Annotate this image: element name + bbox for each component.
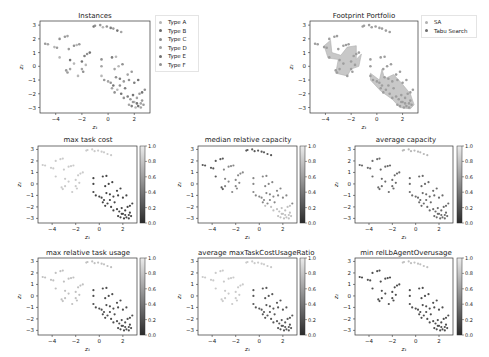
data-point bbox=[409, 295, 411, 297]
data-point bbox=[98, 308, 100, 310]
data-point bbox=[126, 95, 129, 98]
data-point bbox=[62, 300, 64, 302]
data-point bbox=[44, 276, 46, 278]
panel-average-maxtaskcostusageratio: average maxTaskCostUsageRatio −4−2023210… bbox=[160, 243, 323, 357]
data-point bbox=[342, 62, 345, 65]
y-tick-label: 2 bbox=[33, 36, 37, 42]
data-point bbox=[350, 68, 353, 71]
x-tick-label: 0 bbox=[375, 116, 379, 122]
data-point bbox=[231, 191, 233, 193]
data-point bbox=[91, 260, 93, 262]
data-point bbox=[115, 55, 118, 58]
data-point bbox=[447, 202, 449, 204]
data-point bbox=[142, 104, 145, 107]
panel-instances: Instances −4−2023210−1−2−3z₁z₂ Type A Ty… bbox=[0, 0, 245, 130]
y-tick-label: 2 bbox=[348, 158, 352, 164]
scatter-plot: −4−2023210−1−2−3z₁z₂1.00.80.60.40.20.0 bbox=[0, 130, 163, 243]
y-tick-label: 3 bbox=[191, 146, 195, 152]
data-point bbox=[116, 88, 119, 91]
data-point bbox=[400, 94, 403, 97]
data-point bbox=[274, 201, 276, 203]
colorbar-tick-label: 0.2 bbox=[148, 317, 156, 323]
data-point bbox=[444, 217, 446, 219]
y-tick-label: 3 bbox=[31, 146, 35, 152]
data-point bbox=[289, 205, 291, 207]
data-point bbox=[110, 154, 112, 156]
legend: Type A Type B Type C Type D Type E Type … bbox=[155, 15, 199, 72]
x-tick-label: −4 bbox=[52, 116, 61, 122]
y-axis-label: z₂ bbox=[176, 181, 182, 188]
data-point bbox=[111, 87, 114, 90]
data-point bbox=[73, 44, 76, 47]
data-point bbox=[71, 303, 73, 305]
data-point bbox=[129, 98, 132, 101]
y-tick-label: 2 bbox=[191, 158, 195, 164]
data-point bbox=[429, 209, 431, 211]
data-point bbox=[105, 192, 107, 194]
data-point bbox=[432, 320, 434, 322]
data-point bbox=[420, 297, 422, 299]
data-point bbox=[116, 302, 118, 304]
data-point bbox=[395, 95, 398, 98]
data-point bbox=[261, 263, 263, 265]
y-tick-label: 3 bbox=[33, 22, 37, 28]
data-point bbox=[419, 311, 421, 313]
data-point bbox=[103, 199, 105, 201]
data-point bbox=[129, 212, 131, 214]
data-point bbox=[422, 192, 424, 194]
data-point bbox=[438, 197, 440, 199]
data-point bbox=[289, 324, 291, 326]
data-point bbox=[112, 27, 115, 30]
data-point bbox=[410, 150, 412, 152]
data-point bbox=[283, 329, 285, 331]
data-point bbox=[228, 166, 230, 168]
colorbar-tick-label: 0.8 bbox=[308, 158, 316, 164]
y-tick-label: 1 bbox=[348, 169, 352, 175]
data-point bbox=[287, 206, 289, 208]
y-tick-label: −2 bbox=[186, 204, 194, 210]
data-point bbox=[86, 261, 88, 263]
data-point bbox=[427, 293, 429, 295]
x-tick-label: 2 bbox=[121, 226, 125, 232]
data-point bbox=[119, 84, 122, 87]
data-point bbox=[281, 207, 283, 209]
data-point bbox=[426, 206, 428, 208]
data-point bbox=[104, 185, 106, 187]
y-tick-label: −3 bbox=[28, 105, 37, 111]
scatter-plot: −4−2023210−1−2−3z₁z₂1.00.80.60.40.20.0 bbox=[160, 130, 323, 243]
data-point bbox=[379, 56, 382, 59]
axes-frame bbox=[355, 258, 453, 335]
data-point bbox=[103, 79, 106, 82]
colorbar-tick-label: 0.4 bbox=[465, 301, 473, 307]
data-point bbox=[222, 158, 224, 160]
data-point bbox=[105, 304, 107, 306]
data-point bbox=[102, 175, 104, 177]
data-point bbox=[418, 313, 420, 315]
data-point bbox=[224, 185, 226, 187]
data-point bbox=[127, 318, 129, 320]
x-axis-label: z₁ bbox=[84, 346, 90, 352]
colorbar bbox=[300, 146, 305, 223]
data-point bbox=[252, 295, 254, 297]
y-tick-label: 1 bbox=[191, 281, 195, 287]
data-point bbox=[235, 179, 237, 181]
data-point bbox=[409, 183, 411, 185]
x-tick-label: −2 bbox=[72, 338, 80, 344]
y-tick-label: −2 bbox=[28, 91, 36, 97]
data-point bbox=[118, 322, 120, 324]
y-tick-label: 0 bbox=[33, 63, 37, 69]
legend-item: Type C bbox=[159, 35, 195, 44]
colorbar bbox=[140, 258, 145, 335]
data-point bbox=[384, 181, 386, 183]
scatter-plot: −4−2023210−1−2−3z₁z₂1.00.80.60.40.20.0 bbox=[318, 243, 489, 357]
data-point bbox=[62, 158, 64, 160]
data-point bbox=[98, 196, 100, 198]
data-point bbox=[281, 325, 283, 327]
data-point bbox=[290, 327, 292, 329]
data-point bbox=[369, 75, 372, 78]
data-point bbox=[128, 79, 131, 82]
data-point bbox=[262, 287, 264, 289]
data-point bbox=[440, 321, 442, 323]
data-point bbox=[125, 194, 127, 196]
data-point bbox=[44, 164, 46, 166]
